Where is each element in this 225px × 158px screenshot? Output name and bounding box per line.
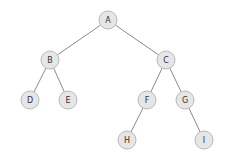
- node-label: E: [65, 96, 70, 105]
- edge-a-c: [115, 25, 158, 55]
- tree-node-d: D: [21, 91, 39, 109]
- edges: [34, 25, 200, 132]
- tree-node-c: C: [157, 51, 175, 69]
- tree-node-e: E: [59, 91, 77, 109]
- tree-node-b: B: [41, 51, 59, 69]
- edge-f-h: [131, 108, 143, 132]
- tree-node-g: G: [176, 91, 194, 109]
- edge-b-d: [34, 68, 46, 92]
- node-label: G: [182, 96, 188, 105]
- edge-c-g: [170, 68, 181, 92]
- tree-node-h: H: [118, 131, 136, 149]
- edge-b-e: [54, 68, 65, 92]
- edge-g-i: [189, 108, 200, 132]
- tree-node-a: A: [99, 11, 117, 29]
- node-label: B: [47, 56, 53, 65]
- edge-c-f: [151, 68, 162, 92]
- node-label: H: [124, 136, 130, 145]
- node-label: D: [27, 96, 33, 105]
- tree-node-f: F: [138, 91, 156, 109]
- edge-a-b: [57, 25, 100, 55]
- tree-diagram: ABCDEFGHI: [0, 0, 225, 158]
- node-label: A: [105, 16, 111, 25]
- tree-node-i: I: [195, 131, 213, 149]
- node-label: F: [145, 96, 150, 105]
- nodes: ABCDEFGHI: [21, 11, 213, 149]
- node-label: C: [163, 56, 169, 65]
- node-label: I: [203, 136, 205, 145]
